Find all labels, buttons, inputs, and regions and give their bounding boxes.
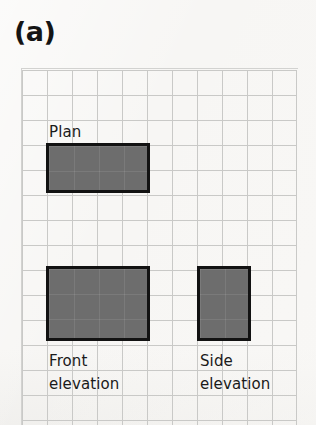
plan-view-rectangle	[46, 143, 150, 193]
side-elevation-label-line1: Side	[200, 350, 233, 372]
grid-right-border	[296, 70, 297, 425]
front-elevation-label-line2: elevation	[49, 373, 119, 395]
front-elevation-rectangle	[46, 266, 150, 341]
plan-view-label: Plan	[49, 121, 81, 143]
grid-left-border	[21, 68, 22, 425]
front-elevation-label-line1: Front	[49, 350, 87, 372]
figure-canvas: (a) Plan Front elevation Side elevation	[0, 0, 316, 425]
side-elevation-rectangle	[197, 266, 251, 341]
side-elevation-label-line2: elevation	[200, 373, 270, 395]
panel-label: (a)	[14, 18, 55, 45]
grid-top-border	[21, 68, 298, 69]
